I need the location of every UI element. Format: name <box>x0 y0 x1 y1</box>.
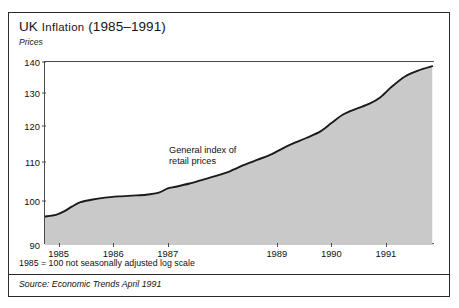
y-axis-tick-label: 100 <box>24 196 40 207</box>
x-axis-tick-mark <box>386 243 387 247</box>
y-axis-tick-mark <box>42 161 46 162</box>
y-axis-tick-label: 140 <box>24 57 40 68</box>
source-divider <box>9 274 449 275</box>
x-axis-tick-label: 1990 <box>321 248 342 259</box>
y-axis-tick-mark <box>42 125 46 126</box>
figure-frame: UK Inflation (1985–1991) Prices 90100110… <box>8 12 450 297</box>
y-axis-tick-label: 130 <box>24 87 40 98</box>
chart-subtitle: Prices <box>19 37 43 47</box>
series-annotation-line1: General index of <box>169 145 236 156</box>
source-note: Source: Economic Trends April 1991 <box>19 279 161 289</box>
area-fill <box>45 66 432 245</box>
y-axis-tick-label: 110 <box>25 156 40 167</box>
y-axis-tick-mark <box>42 92 46 93</box>
x-axis-tick-mark <box>113 243 114 247</box>
series-annotation-line2: retail prices <box>169 156 236 167</box>
y-axis-tick-mark <box>42 201 46 202</box>
x-axis-tick-mark <box>59 243 60 247</box>
series-annotation: General index of retail prices <box>169 145 236 168</box>
title-year-range: (1985–1991) <box>84 19 166 34</box>
y-axis-tick-label: 90 <box>30 240 40 251</box>
x-axis-tick-label: 1989 <box>266 248 287 259</box>
plot-area: 9010011012013014019851986198719891990199… <box>44 61 434 244</box>
x-axis-tick-mark <box>331 243 332 247</box>
chart-footnote: 1985 = 100 not seasonally adjusted log s… <box>19 258 195 268</box>
y-axis-tick-label: 120 <box>24 120 40 131</box>
x-axis-tick-mark <box>168 243 169 247</box>
page-title: UK Inflation (1985–1991) <box>19 19 166 34</box>
title-prefix: UK <box>19 19 42 34</box>
x-axis-tick-label: 1991 <box>375 248 396 259</box>
x-axis-tick-mark <box>277 243 278 247</box>
series-area-chart <box>45 62 435 245</box>
title-smallcaps: Inflation <box>42 21 85 33</box>
y-axis-tick-mark <box>42 62 46 63</box>
